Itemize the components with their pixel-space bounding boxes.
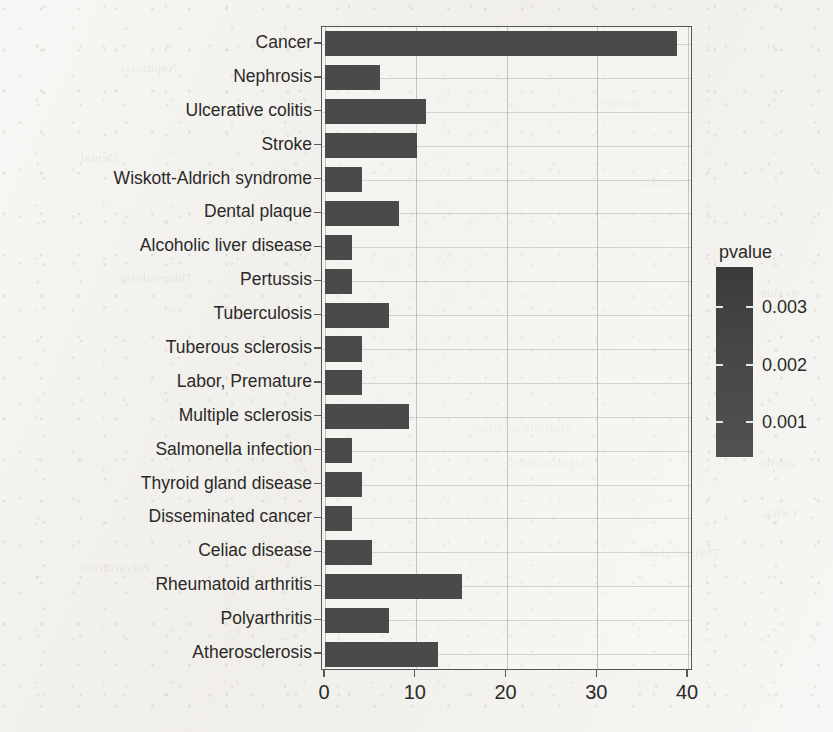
y-axis-tick — [314, 246, 321, 247]
colorbar-label-0.002: 0.002 — [762, 356, 807, 374]
y-axis-tick — [314, 619, 321, 620]
bar[interactable] — [325, 336, 362, 361]
x-axis-tick-30 — [596, 670, 597, 677]
y-axis-label-disseminated-cancer: Disseminated cancer — [0, 508, 312, 526]
bar[interactable] — [325, 31, 677, 56]
colorbar-label-0.001: 0.001 — [762, 413, 807, 431]
bar[interactable] — [325, 99, 426, 124]
bar-row — [322, 642, 691, 667]
x-axis-label-10: 10 — [385, 682, 445, 702]
legend-pvalue: pvalue 0.0030.0020.001 — [716, 243, 772, 457]
bar[interactable] — [325, 201, 399, 226]
y-axis-label-dental-plaque: Dental plaque — [0, 203, 312, 221]
legend-title: pvalue — [719, 243, 772, 261]
bar-row — [322, 540, 691, 565]
y-axis-tick — [314, 178, 321, 179]
y-axis-label-alcoholic-liver-disease: Alcoholic liver disease — [0, 237, 312, 255]
bar-row — [322, 269, 691, 294]
bar[interactable] — [325, 608, 389, 633]
colorbar-label-0.003: 0.003 — [762, 298, 807, 316]
y-axis-label-celiac-disease: Celiac disease — [0, 542, 312, 560]
colorbar-tick-0.003 — [716, 306, 723, 308]
bar-row — [322, 574, 691, 599]
plot-panel — [321, 26, 692, 670]
y-axis-tick — [314, 415, 321, 416]
bar-row — [322, 370, 691, 395]
bar-row — [322, 404, 691, 429]
y-axis-label-thyroid-gland-disease: Thyroid gland disease — [0, 475, 312, 493]
y-axis-label-ulcerative-colitis: Ulcerative colitis — [0, 102, 312, 120]
colorbar-gradient: 0.0030.0020.001 — [716, 267, 753, 457]
bar[interactable] — [325, 133, 417, 158]
x-axis-label-30: 30 — [566, 682, 626, 702]
bar-row — [322, 336, 691, 361]
x-axis-tick-0 — [323, 670, 324, 677]
bar[interactable] — [325, 472, 362, 497]
bar[interactable] — [325, 404, 409, 429]
y-axis-label-labor-premature: Labor, Premature — [0, 373, 312, 391]
y-axis-tick — [314, 585, 321, 586]
y-axis-label-cancer: Cancer — [0, 34, 312, 52]
y-axis-label-rheumatoid-arthritis: Rheumatoid arthritis — [0, 576, 312, 594]
y-axis-label-tuberous-sclerosis: Tuberous sclerosis — [0, 339, 312, 357]
y-axis-tick — [314, 449, 321, 450]
bar[interactable] — [325, 269, 352, 294]
bar-row — [322, 99, 691, 124]
bar-row — [322, 608, 691, 633]
bar-row — [322, 438, 691, 463]
y-axis-tick — [314, 347, 321, 348]
y-axis-label-multiple-sclerosis: Multiple sclerosis — [0, 407, 312, 425]
bar-row — [322, 167, 691, 192]
x-axis-tick-10 — [414, 670, 415, 677]
x-axis-label-0: 0 — [294, 682, 354, 702]
bar-row — [322, 65, 691, 90]
y-axis-label-stroke: Stroke — [0, 136, 312, 154]
y-axis-label-tuberculosis: Tuberculosis — [0, 305, 312, 323]
bar[interactable] — [325, 167, 362, 192]
bar[interactable] — [325, 370, 362, 395]
colorbar-tick-0.001 — [716, 421, 723, 423]
y-axis-tick — [314, 110, 321, 111]
bar-row — [322, 31, 691, 56]
y-axis-label-wiskott-aldrich-syndrome: Wiskott-Aldrich syndrome — [0, 170, 312, 188]
horizontal-bar-chart: CancerNephrosisUlcerative colitisStrokeW… — [0, 0, 833, 732]
bar[interactable] — [325, 574, 462, 599]
bar-row — [322, 303, 691, 328]
bar-row — [322, 472, 691, 497]
bar-row — [322, 133, 691, 158]
y-axis-label-nephrosis: Nephrosis — [0, 68, 312, 86]
y-axis-tick — [314, 76, 321, 77]
colorbar-tick-0.002 — [716, 364, 723, 366]
colorbar-tick-0.001 — [746, 421, 753, 423]
bar[interactable] — [325, 303, 389, 328]
bar[interactable] — [325, 235, 352, 260]
y-axis-tick — [314, 212, 321, 213]
bar-row — [322, 235, 691, 260]
colorbar-tick-0.002 — [746, 364, 753, 366]
bar-row — [322, 201, 691, 226]
y-axis-label-salmonella-infection: Salmonella infection — [0, 441, 312, 459]
x-axis-tick-20 — [505, 670, 506, 677]
y-axis-tick — [314, 144, 321, 145]
x-axis-label-40: 40 — [657, 682, 717, 702]
bar[interactable] — [325, 540, 372, 565]
bar[interactable] — [325, 438, 352, 463]
y-axis-label-atherosclerosis: Atherosclerosis — [0, 644, 312, 662]
colorbar-tick-0.003 — [746, 306, 753, 308]
y-axis-tick — [314, 483, 321, 484]
y-axis-tick — [314, 517, 321, 518]
x-axis-label-20: 20 — [476, 682, 536, 702]
y-axis-tick — [314, 314, 321, 315]
y-axis-tick — [314, 551, 321, 552]
bar[interactable] — [325, 65, 380, 90]
y-axis-tick — [314, 280, 321, 281]
y-axis-label-pertussis: Pertussis — [0, 271, 312, 289]
y-axis-label-polyarthritis: Polyarthritis — [0, 610, 312, 628]
bar-row — [322, 506, 691, 531]
y-axis-tick — [314, 652, 321, 653]
y-axis-tick — [314, 42, 321, 43]
y-axis-tick — [314, 381, 321, 382]
x-axis-tick-40 — [686, 670, 687, 677]
bar[interactable] — [325, 642, 438, 667]
bar[interactable] — [325, 506, 352, 531]
